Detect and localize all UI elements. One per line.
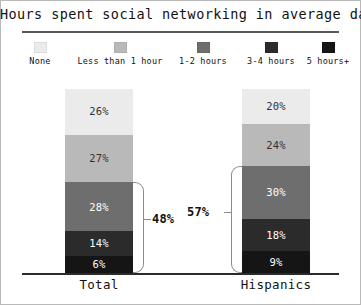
bar-total-segment-none[interactable]: 26% <box>65 89 133 135</box>
plot-area: 26% 27% 28% 14% 6% 20% 24% 30% 18% 9% <box>0 0 361 305</box>
bar-total-segment-less-than-1-hour[interactable]: 27% <box>65 135 133 183</box>
bar-hispanics-segment-3-4-hours[interactable]: 18% <box>242 219 310 251</box>
bracket-hispanics <box>231 166 242 273</box>
bar-total-segment-5-hours-plus[interactable]: 6% <box>65 256 133 273</box>
bar-total-label-none: 26% <box>89 106 109 117</box>
bar-total-label-1-2-hours: 28% <box>89 202 109 213</box>
bracket-hispanics-label: 57% <box>187 205 209 219</box>
bar-total-label-5-hours-plus: 6% <box>92 259 105 270</box>
bar-total-segment-1-2-hours[interactable]: 28% <box>65 182 133 231</box>
bar-hispanics-segment-none[interactable]: 20% <box>242 89 310 124</box>
bar-hispanics-label-none: 20% <box>266 101 286 112</box>
bar-total-label-less-than-1-hour: 27% <box>89 153 109 164</box>
bar-hispanics-segment-1-2-hours[interactable]: 30% <box>242 166 310 219</box>
bar-hispanics-label-3-4-hours: 18% <box>266 230 286 241</box>
bracket-hispanics-tick <box>224 212 231 213</box>
axis-baseline <box>22 273 339 275</box>
bracket-total-label: 48% <box>152 212 174 226</box>
bracket-total-tick <box>144 219 151 220</box>
bar-hispanics[interactable]: 20% 24% 30% 18% 9% <box>242 89 310 273</box>
category-label-total: Total <box>59 277 139 292</box>
bracket-total <box>133 182 144 273</box>
category-label-hispanics: Hispanics <box>231 277 321 292</box>
bar-hispanics-segment-5-hours-plus[interactable]: 9% <box>242 251 310 273</box>
bar-total-label-3-4-hours: 14% <box>89 238 109 249</box>
bar-hispanics-label-5-hours-plus: 9% <box>269 257 282 268</box>
bar-total-segment-3-4-hours[interactable]: 14% <box>65 231 133 256</box>
bar-hispanics-label-1-2-hours: 30% <box>266 187 286 198</box>
bar-hispanics-label-less-than-1-hour: 24% <box>266 140 286 151</box>
bar-total[interactable]: 26% 27% 28% 14% 6% <box>65 89 133 273</box>
bar-hispanics-segment-less-than-1-hour[interactable]: 24% <box>242 124 310 166</box>
